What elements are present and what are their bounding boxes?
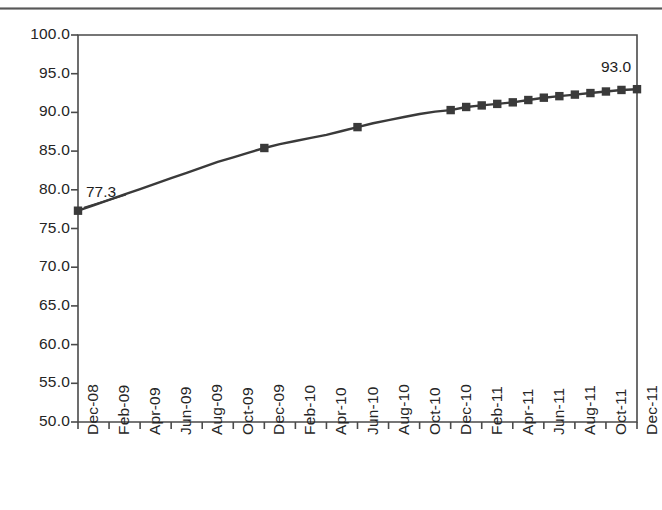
y-axis-tick-label: 70.0: [8, 257, 70, 275]
x-axis-tick-label: Aug-09: [208, 384, 226, 435]
y-axis-tick-label: 55.0: [8, 373, 70, 391]
x-axis-tick-label: Apr-09: [146, 387, 164, 435]
x-axis-tick-label: Apr-11: [519, 388, 537, 435]
x-axis-tick-label: Feb-10: [301, 385, 319, 435]
x-axis-tick-label: Oct-09: [239, 387, 257, 435]
x-axis-tick-label: Dec-10: [457, 384, 475, 435]
y-axis-tick-label: 80.0: [8, 180, 70, 198]
x-axis-tick-label: Aug-10: [395, 384, 413, 435]
x-axis-tick-label: Dec-11: [643, 385, 661, 435]
axis-group: [78, 35, 637, 422]
y-axis-tick-label: 100.0: [8, 25, 70, 43]
y-axis-tick-label: 95.0: [8, 64, 70, 82]
data-point-markers: [74, 85, 641, 215]
x-axis-tick-label: Aug-11: [581, 385, 599, 435]
data-point-value-label: 93.0: [601, 58, 631, 76]
x-axis-tick-label: Feb-11: [488, 386, 506, 435]
y-axis-tick-label: 50.0: [8, 412, 70, 430]
x-axis-tick-label: Jun-10: [364, 386, 382, 435]
data-series: [78, 89, 637, 211]
x-axis-tick-label: Oct-10: [426, 387, 444, 435]
y-axis-tick-label: 85.0: [8, 141, 70, 159]
x-axis-tick-label: Oct-11: [612, 388, 630, 435]
x-axis-tick-label: Jun-09: [177, 386, 195, 435]
x-axis-tick-label: Dec-09: [270, 384, 288, 435]
data-point-value-label: 77.3: [86, 183, 116, 201]
x-axis-tick-label: Apr-10: [332, 387, 350, 435]
y-axis-tick-label: 65.0: [8, 296, 70, 314]
line-chart-figure: 100.095.090.085.080.075.070.065.060.055.…: [0, 0, 662, 510]
tick-marks: [71, 35, 637, 429]
x-axis-tick-label: Dec-08: [84, 384, 102, 435]
x-axis-tick-label: Feb-09: [115, 385, 133, 435]
y-axis-tick-label: 75.0: [8, 219, 70, 237]
y-axis-tick-label: 60.0: [8, 335, 70, 353]
x-axis-tick-label: Jun-11: [550, 388, 568, 435]
y-axis-tick-label: 90.0: [8, 102, 70, 120]
